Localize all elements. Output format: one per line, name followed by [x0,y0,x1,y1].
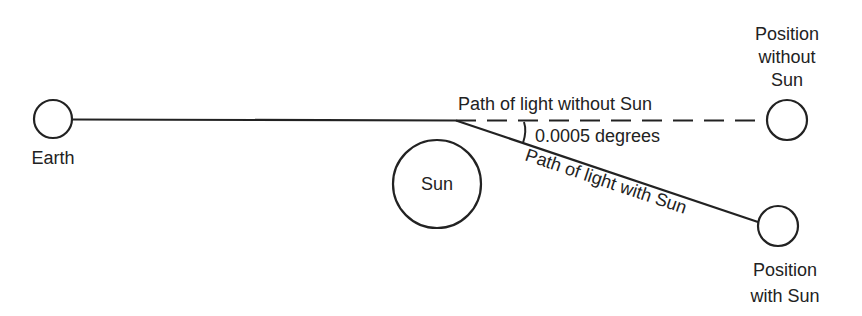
position-without-sun-label-line2: without [757,47,815,67]
star-position-without-sun [767,100,807,140]
sun-label: Sun [421,174,453,194]
position-with-sun-label-line2: with Sun [749,286,819,306]
path-without-sun-label: Path of light without Sun [458,94,652,114]
position-with-sun-label-line1: Position [753,260,817,280]
angle-label: 0.0005 degrees [535,126,660,146]
path-with-sun-label: Path of light with Sun [523,145,690,218]
earth-circle [34,100,72,138]
star-position-with-sun [758,206,798,246]
angle-arc [523,122,525,143]
light-deflection-diagram: Earth Path of light without Sun Position… [0,0,862,316]
position-without-sun-label-line3: Sun [771,70,803,90]
position-without-sun-label-line1: Position [755,24,819,44]
diagram-svg: Earth Path of light without Sun Position… [0,0,862,316]
incoming-light-path [72,120,456,121]
earth-label: Earth [31,148,74,168]
